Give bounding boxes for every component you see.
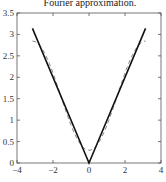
chart: Fourier approximation. −4−202400.511.522… xyxy=(0,0,166,182)
fourier-approx-line xyxy=(32,41,145,150)
y-tick-label: 0 xyxy=(10,158,15,168)
y-tick-label: 0.5 xyxy=(3,137,15,147)
y-tick-label: 1.5 xyxy=(3,94,15,104)
plot-area xyxy=(32,28,145,163)
x-tick-label: 4 xyxy=(159,165,164,175)
y-tick-label: 2.5 xyxy=(3,51,15,61)
chart-title: Fourier approximation. xyxy=(44,0,137,8)
plot-frame xyxy=(17,13,161,163)
x-tick-label: −2 xyxy=(48,165,58,175)
y-tick-label: 3 xyxy=(10,29,15,39)
x-tick-label: 0 xyxy=(87,165,92,175)
abs-x-line xyxy=(32,28,145,163)
y-tick-label: 1 xyxy=(10,115,15,125)
x-tick-label: 2 xyxy=(123,165,128,175)
y-tick-label: 2 xyxy=(10,72,15,82)
y-tick-label: 3.5 xyxy=(3,8,15,18)
